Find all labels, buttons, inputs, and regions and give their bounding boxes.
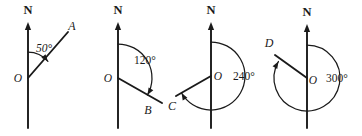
- north-label: N: [113, 3, 122, 17]
- diagram-canvas: NOA50° NOB120° NOC240° NOD300°: [0, 0, 362, 136]
- point-label: B: [144, 103, 152, 117]
- bearing-diagram-240: NOC240°: [168, 3, 255, 128]
- north-arrowhead: [208, 22, 214, 30]
- bearing-diagram-50: NOA50°: [14, 3, 76, 128]
- arc-arrowhead: [147, 88, 153, 95]
- origin-label: O: [309, 74, 318, 86]
- point-label: A: [67, 19, 76, 33]
- north-arrowhead: [115, 22, 121, 30]
- bearing-ray-line: [275, 55, 307, 78]
- origin-label: O: [14, 72, 23, 84]
- north-arrowhead: [25, 22, 31, 30]
- bearing-diagram-120: NOB120°: [104, 3, 162, 128]
- north-arrowhead: [304, 24, 310, 32]
- origin-label: O: [104, 72, 113, 84]
- bearing-ray-line: [28, 32, 68, 78]
- angle-label: 120°: [134, 54, 156, 66]
- bearing-ray-line: [118, 78, 162, 103]
- angle-label: 300°: [326, 72, 348, 84]
- bearing-diagram-300: NOD300°: [264, 5, 349, 128]
- bearing-figure: NOA50° NOB120° NOC240° NOD300°: [0, 0, 362, 136]
- angle-label: 50°: [36, 42, 53, 54]
- origin-label: O: [214, 70, 223, 82]
- arc-arrowhead: [273, 62, 279, 69]
- north-label: N: [23, 3, 32, 17]
- north-label: N: [302, 5, 311, 19]
- angle-label: 240°: [233, 70, 255, 82]
- point-label: C: [168, 99, 177, 113]
- point-label: D: [264, 36, 274, 50]
- north-label: N: [206, 3, 215, 17]
